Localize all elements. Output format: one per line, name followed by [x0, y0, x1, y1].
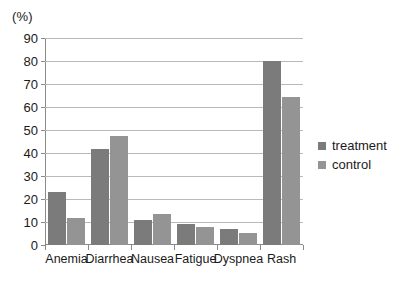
y-tick-label-10: 10: [24, 216, 38, 229]
bar-group-nausea: [131, 38, 174, 245]
legend-swatch-control: [318, 161, 326, 169]
chart-legend: treatmentcontrol: [318, 136, 387, 174]
y-tick-label-20: 20: [24, 193, 38, 206]
bar-group-anemia: [45, 38, 88, 245]
y-axis-unit-label: (%): [12, 10, 33, 24]
plot-area: 9080706050403020100: [45, 38, 303, 245]
x-tick-mark-3: [174, 245, 175, 250]
x-axis-label-diarrhea: Diarrhea: [86, 252, 134, 266]
legend-item-treatment: treatment: [318, 136, 387, 155]
bar-group-dyspnea: [217, 38, 260, 245]
y-tick-label-0: 0: [31, 239, 38, 252]
y-tick-label-50: 50: [24, 124, 38, 137]
bar-anemia-treatment: [48, 192, 66, 245]
y-tick-label-30: 30: [24, 170, 38, 183]
x-tick-mark-2: [131, 245, 132, 250]
bar-fatigue-treatment: [177, 224, 195, 245]
bars-layer: [45, 38, 303, 245]
x-tick-mark-0: [45, 245, 46, 250]
bar-fatigue-control: [196, 227, 214, 245]
x-tick-mark-4: [217, 245, 218, 250]
legend-label-control: control: [332, 155, 371, 174]
x-axis-label-rash: Rash: [267, 252, 296, 266]
x-tick-mark-6: [303, 245, 304, 250]
bar-anemia-control: [67, 218, 85, 245]
x-tick-mark-5: [260, 245, 261, 250]
x-axis-label-anemia: Anemia: [45, 252, 87, 266]
bar-rash-control: [282, 97, 300, 245]
y-tick-label-60: 60: [24, 101, 38, 114]
bar-diarrhea-treatment: [91, 149, 109, 245]
y-tick-label-90: 90: [24, 32, 38, 45]
bar-group-diarrhea: [88, 38, 131, 245]
bar-dyspnea-treatment: [220, 229, 238, 245]
x-axis-label-fatigue: Fatigue: [175, 252, 217, 266]
bar-chart-figure: (%) 9080706050403020100 AnemiaDiarrheaNa…: [0, 0, 404, 287]
bar-rash-treatment: [263, 61, 281, 245]
x-axis-label-nausea: Nausea: [131, 252, 174, 266]
y-tick-label-80: 80: [24, 55, 38, 68]
x-axis-label-dyspnea: Dyspnea: [214, 252, 263, 266]
bar-nausea-control: [153, 214, 171, 245]
bar-dyspnea-control: [239, 233, 257, 245]
y-tick-label-40: 40: [24, 147, 38, 160]
legend-item-control: control: [318, 155, 387, 174]
legend-swatch-treatment: [318, 142, 326, 150]
x-tick-mark-1: [88, 245, 89, 250]
bar-nausea-treatment: [134, 220, 152, 245]
bar-diarrhea-control: [110, 136, 128, 245]
y-tick-label-70: 70: [24, 78, 38, 91]
bar-group-rash: [260, 38, 303, 245]
legend-label-treatment: treatment: [332, 136, 387, 155]
bar-group-fatigue: [174, 38, 217, 245]
